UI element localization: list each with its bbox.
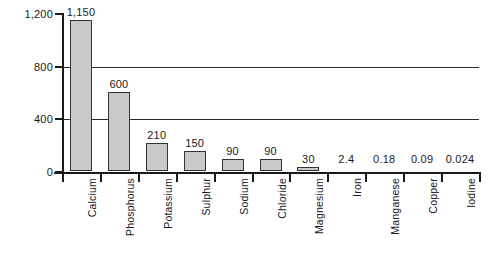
category-label: Iodine bbox=[465, 178, 477, 259]
category-label: Phosphorus bbox=[124, 178, 136, 259]
category-label: Manganese bbox=[389, 178, 401, 259]
bar bbox=[297, 167, 319, 171]
x-tick-mark bbox=[176, 172, 178, 182]
x-tick-mark bbox=[214, 172, 216, 182]
x-tick-mark bbox=[403, 172, 405, 182]
category-label: Sodium bbox=[238, 178, 250, 259]
x-tick-mark bbox=[479, 172, 481, 182]
category-label: Calcium bbox=[86, 178, 98, 259]
category-label: Copper bbox=[427, 178, 439, 259]
y-tick-label: 400 bbox=[34, 113, 53, 125]
category-label: Magnesium bbox=[313, 178, 325, 259]
category-label: Sulphur bbox=[200, 178, 212, 259]
category-label: Iron bbox=[351, 178, 363, 259]
bar-value-label: 1,150 bbox=[51, 6, 111, 18]
bar bbox=[70, 20, 92, 171]
y-axis-line bbox=[62, 14, 64, 173]
bar-value-label: 600 bbox=[89, 78, 149, 90]
chart-screenshot: Amount (g) 04008001,200 1,15060021015090… bbox=[0, 0, 489, 259]
category-label: Chloride bbox=[276, 178, 288, 259]
x-tick-mark bbox=[138, 172, 140, 182]
y-tick-label: 0 bbox=[47, 166, 53, 178]
bar-value-label: 0.024 bbox=[430, 153, 489, 165]
plot-area: 04008001,200 1,1506002101509090302.40.18… bbox=[62, 14, 479, 172]
x-tick-mark bbox=[252, 172, 254, 182]
x-tick-mark bbox=[327, 172, 329, 182]
y-tick-mark bbox=[55, 66, 64, 68]
x-tick-mark bbox=[62, 172, 64, 182]
bar bbox=[222, 159, 244, 171]
y-tick-label: 800 bbox=[34, 61, 53, 73]
category-label: Potassium bbox=[162, 178, 174, 259]
x-tick-mark bbox=[100, 172, 102, 182]
x-axis-line bbox=[54, 172, 479, 174]
x-tick-mark bbox=[365, 172, 367, 182]
y-tick-mark bbox=[55, 118, 64, 120]
y-tick-label: 1,200 bbox=[24, 8, 53, 20]
gridline bbox=[62, 67, 479, 68]
x-tick-mark bbox=[441, 172, 443, 182]
x-tick-mark bbox=[289, 172, 291, 182]
